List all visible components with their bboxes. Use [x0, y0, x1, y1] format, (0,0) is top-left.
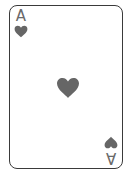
heart-icon — [14, 25, 28, 38]
rank-label: A — [106, 150, 116, 165]
bottom-right-corner-index: A — [104, 136, 118, 165]
rank-label: A — [16, 9, 26, 24]
center-heart-pip-icon — [56, 77, 80, 99]
top-left-corner-index: A — [14, 9, 28, 38]
heart-icon — [104, 136, 118, 149]
playing-card-ace-of-hearts[interactable]: A A — [9, 5, 123, 169]
